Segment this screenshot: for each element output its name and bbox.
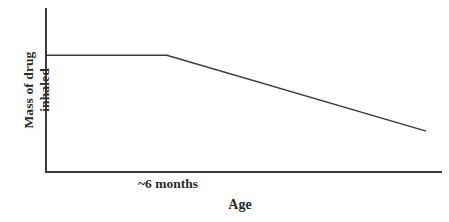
x-axis-line: [45, 171, 442, 173]
data-series-line: [46, 55, 426, 131]
x-axis-title: Age: [190, 197, 290, 213]
y-axis-title-line-1: Mass of drug: [21, 34, 37, 146]
y-axis-title: Mass of drug inhaled: [4, 34, 48, 146]
chart-figure: Mass of drug inhaled ~6 months Age: [0, 0, 449, 222]
x-axis-tick-label-six-months: ~6 months: [108, 176, 228, 192]
y-axis-title-line-2: inhaled: [37, 34, 53, 146]
